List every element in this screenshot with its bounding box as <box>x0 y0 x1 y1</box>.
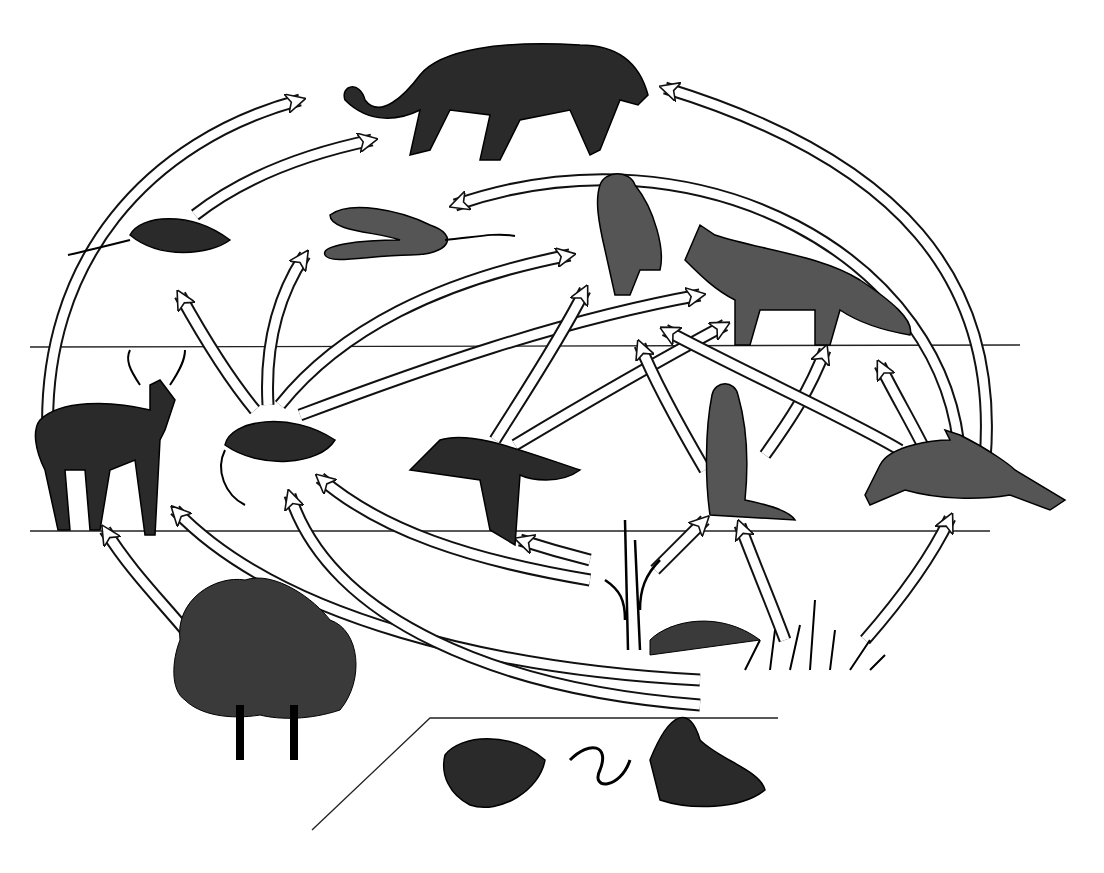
arrow-fill <box>180 295 255 410</box>
ground-squirrel-illustration <box>706 384 795 520</box>
arrow-fill <box>640 345 705 470</box>
bird-illustration <box>410 437 580 545</box>
food-web-diagram <box>0 0 1104 873</box>
arrow-fill <box>740 525 785 640</box>
decomposers-illustration <box>444 717 765 807</box>
mouse-illustration <box>221 421 335 505</box>
mountain-lion-illustration <box>344 44 648 160</box>
arrow-shrew-to-mountain_lion <box>195 140 372 215</box>
deer-illustration <box>35 350 185 535</box>
arrow-fill <box>320 478 590 580</box>
rattlesnake-illustration <box>325 208 515 260</box>
owl-illustration <box>598 174 662 295</box>
level-divider-upper <box>30 345 1020 347</box>
arrow-fill <box>105 530 185 630</box>
shrew-illustration <box>68 219 230 255</box>
arrow-fill <box>655 520 705 570</box>
arrow-corn-to-mouse <box>320 478 590 580</box>
